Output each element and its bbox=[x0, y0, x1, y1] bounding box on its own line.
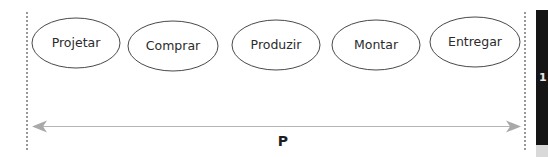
step-label: Montar bbox=[354, 37, 399, 52]
step-comprar: Comprar bbox=[128, 21, 218, 71]
side-panel-footer bbox=[536, 145, 548, 157]
process-diagram: Projetar Comprar Produzir Montar Entrega… bbox=[0, 0, 548, 157]
step-produzir: Produzir bbox=[232, 20, 320, 70]
step-label: Comprar bbox=[146, 38, 201, 53]
step-entregar: Entregar bbox=[430, 17, 520, 67]
side-panel-glyph: 1 bbox=[539, 71, 547, 84]
step-montar: Montar bbox=[332, 20, 420, 70]
span-label: P bbox=[278, 133, 288, 149]
side-panel: 1 bbox=[536, 10, 548, 157]
step-label: Produzir bbox=[251, 37, 303, 52]
step-label: Projetar bbox=[52, 35, 102, 50]
step-label: Entregar bbox=[448, 34, 503, 49]
step-projetar: Projetar bbox=[32, 18, 120, 68]
span-arrow bbox=[32, 121, 521, 133]
